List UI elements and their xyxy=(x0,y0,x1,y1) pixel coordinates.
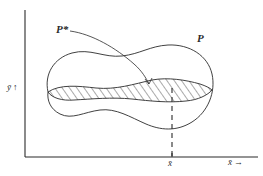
label-p-star: P* xyxy=(56,24,68,35)
y-axis-arrow-icon: ↑ xyxy=(11,82,18,92)
y-axis-label: ȳ↑ xyxy=(7,83,18,92)
x-axis-arrow-icon: → xyxy=(232,157,243,167)
label-p-text: P xyxy=(197,32,204,44)
x-axis-tick-label-text: x̄ xyxy=(168,158,172,168)
figure-root: P* P ȳ↑ x̄→ x̄ xyxy=(0,0,263,176)
figure-canvas xyxy=(0,0,263,176)
x-axis-label: x̄→ xyxy=(228,158,243,167)
label-p: P xyxy=(197,33,204,44)
leader-line-p-star xyxy=(70,31,149,84)
label-p-star-text: P* xyxy=(56,23,68,35)
region-efficient-band xyxy=(48,79,212,102)
x-axis-tick-label: x̄ xyxy=(168,159,172,168)
